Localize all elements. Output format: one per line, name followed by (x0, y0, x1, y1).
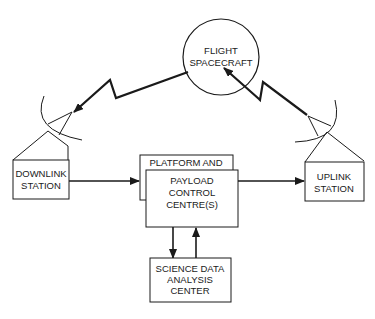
science-label-line3: CENTER (170, 285, 209, 296)
platform-label: PLATFORM AND (149, 157, 222, 168)
uplink-label-line1: UPLINK (317, 171, 352, 182)
downlink-label-line1: DOWNLINK (15, 168, 67, 179)
uplink-label-line2: STATION (314, 183, 354, 194)
payload-control-centre-node: PAYLOAD CONTROL CENTRE(S) (146, 170, 238, 227)
downlink-signal-beam (74, 72, 188, 112)
spacecraft-label-line1: FLIGHT (204, 45, 238, 56)
uplink-station-node: UPLINK STATION (305, 132, 364, 201)
uplink-dish-antenna-icon (295, 100, 337, 142)
science-data-analysis-center-node: SCIENCE DATA ANALYSIS CENTER (150, 258, 231, 302)
payload-label-line2: CONTROL (169, 187, 215, 198)
science-label-line1: SCIENCE DATA (156, 263, 225, 274)
spacecraft-label-line2: SPACECRAFT (189, 57, 252, 68)
ground-segment-diagram: FLIGHT SPACECRAFT DOWNLINK STATION UPLIN… (0, 0, 375, 319)
payload-label-line1: PAYLOAD (170, 175, 214, 186)
downlink-dish-antenna-icon (41, 96, 82, 140)
payload-label-line3: CENTRE(S) (166, 199, 218, 210)
flight-spacecraft-node: FLIGHT SPACECRAFT (183, 19, 259, 95)
downlink-station-node: DOWNLINK STATION (13, 131, 69, 199)
science-label-line2: ANALYSIS (167, 274, 213, 285)
downlink-label-line2: STATION (21, 180, 61, 191)
